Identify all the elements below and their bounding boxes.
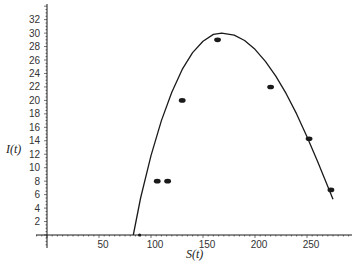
y-axis: 2468101214161820222426283032 bbox=[29, 4, 47, 248]
y-tick-label: 30 bbox=[29, 28, 41, 39]
y-tick-label: 22 bbox=[29, 81, 41, 92]
y-tick-label: 8 bbox=[34, 176, 40, 187]
y-axis-label: I(t) bbox=[5, 142, 21, 156]
x-axis-label: S(t) bbox=[186, 247, 203, 261]
y-tick-label: 14 bbox=[29, 135, 41, 146]
x-tick-label: 200 bbox=[251, 239, 268, 250]
fitted-curve bbox=[133, 33, 333, 235]
y-tick-label: 16 bbox=[29, 122, 41, 133]
y-tick-label: 2 bbox=[34, 216, 40, 227]
y-tick-label: 12 bbox=[29, 149, 41, 160]
data-point bbox=[154, 179, 161, 184]
data-points bbox=[138, 38, 334, 237]
data-point bbox=[214, 38, 221, 43]
y-tick-label: 18 bbox=[29, 108, 41, 119]
y-tick-label: 10 bbox=[29, 162, 41, 173]
y-tick-label: 28 bbox=[29, 41, 41, 52]
data-point bbox=[267, 85, 274, 90]
phase-plot: 2468101214161820222426283032 50100150200… bbox=[0, 0, 362, 264]
y-tick-label: 26 bbox=[29, 55, 41, 66]
data-point bbox=[179, 98, 186, 103]
y-tick-label: 32 bbox=[29, 14, 41, 25]
data-point bbox=[328, 188, 335, 193]
data-point bbox=[164, 179, 171, 184]
y-tick-label: 20 bbox=[29, 95, 41, 106]
y-tick-label: 6 bbox=[34, 189, 40, 200]
initial-point bbox=[138, 233, 141, 236]
fitted-curve-path bbox=[133, 33, 333, 235]
x-tick-label: 100 bbox=[147, 239, 164, 250]
y-tick-label: 24 bbox=[29, 68, 41, 79]
y-tick-label: 4 bbox=[34, 203, 40, 214]
data-point bbox=[306, 136, 313, 141]
x-tick-label: 50 bbox=[97, 239, 109, 250]
x-tick-label: 250 bbox=[303, 239, 320, 250]
